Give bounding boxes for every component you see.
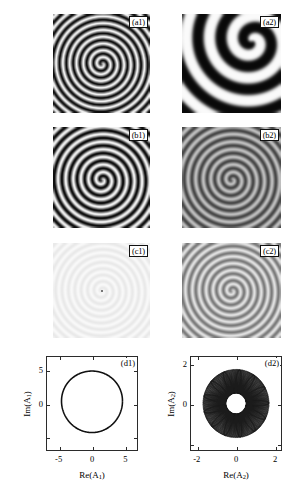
axis-title-x-d1: Re(A1) [79, 470, 105, 482]
tick-x-top-d1-1 [93, 357, 94, 360]
spiral-field-b2 [182, 127, 281, 228]
tick-x-d1-0 [60, 447, 61, 450]
panel-b1: (b1) [53, 127, 150, 228]
panel-c1: (c1) [53, 243, 150, 338]
tick-y-d2-0 [191, 445, 194, 446]
ticklabel-y-d1-2: 5 [33, 365, 43, 374]
tick-x-top-d1-0 [60, 357, 61, 360]
spiral-field-c2 [182, 243, 281, 338]
spiral-field-a2 [182, 14, 281, 113]
tick-x-d2-1 [237, 447, 238, 450]
tick-y-d1-0 [47, 438, 50, 439]
tick-y-right-d1-0 [134, 438, 137, 439]
panel-a2: (a2) [182, 14, 281, 113]
tick-x-d1-2 [126, 447, 127, 450]
plot-d2: (d2) [190, 356, 282, 451]
ticklabel-x-d1-2: 5 [123, 455, 127, 464]
ticklabel-y-d2-2: 2 [177, 359, 187, 368]
tick-x-top-d2-0 [198, 357, 199, 360]
tick-y-d1-1 [47, 405, 50, 406]
tick-y-right-d2-1 [278, 405, 281, 406]
tick-y-right-d1-2 [134, 371, 137, 372]
tick-x-top-d2-1 [237, 357, 238, 360]
panel-b2: (b2) [182, 127, 281, 228]
ticklabel-x-d1-1: 0 [90, 455, 94, 464]
spiral-field-c1 [53, 243, 150, 338]
axis-title-y-d2: Im(A2) [166, 391, 178, 417]
ticklabel-y-d1-1: 0 [33, 399, 43, 408]
panel-a1: (a1) [53, 14, 150, 113]
tick-x-d2-2 [276, 447, 277, 450]
plot-d1: (d1) [46, 356, 138, 451]
tick-y-d2-1 [191, 405, 194, 406]
ticklabel-y-d2-1: 0 [177, 399, 187, 408]
axis-title-x-d2: Re(A2) [223, 470, 249, 482]
orbit-curve-d2 [191, 357, 281, 450]
tick-y-d2-2 [191, 365, 194, 366]
panel-label-b2: (b2) [260, 129, 279, 141]
panel-label-d2: (d2) [264, 358, 280, 368]
panel-label-a2: (a2) [260, 16, 279, 28]
panel-label-c1: (c1) [129, 245, 148, 257]
ticklabel-x-d1-0: -5 [55, 455, 62, 464]
panel-label-a1: (a1) [129, 16, 148, 28]
tick-x-d2-0 [198, 447, 199, 450]
ticklabel-x-d2-1: 0 [234, 455, 238, 464]
figure-root: (a1) (a2) (b1) (b2) (c1) (c2) [0, 0, 297, 502]
tick-y-right-d2-0 [278, 445, 281, 446]
spiral-field-b1 [53, 127, 150, 228]
tick-y-d1-2 [47, 371, 50, 372]
tick-x-d1-1 [93, 447, 94, 450]
orbit-curve-d1 [47, 357, 137, 450]
tick-y-right-d1-1 [134, 405, 137, 406]
ticklabel-x-d2-0: -2 [193, 455, 200, 464]
spiral-field-a1 [53, 14, 150, 113]
panel-label-c2: (c2) [260, 245, 279, 257]
axis-title-y-d1: Im(A1) [22, 391, 34, 417]
panel-label-b1: (b1) [129, 129, 148, 141]
panel-c2: (c2) [182, 243, 281, 338]
ticklabel-x-d2-2: 2 [273, 455, 277, 464]
panel-label-d1: (d1) [120, 358, 136, 368]
